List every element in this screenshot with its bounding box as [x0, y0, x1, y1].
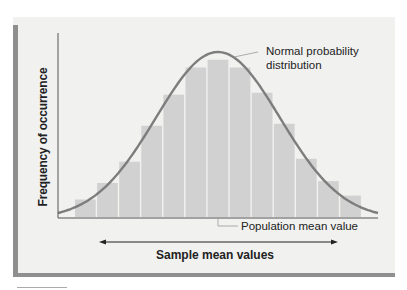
curve-annotation-pointer	[234, 52, 258, 57]
curve-annotation: Normal probability distribution	[266, 44, 359, 72]
sample-range-arrow	[99, 240, 338, 245]
histogram-bar	[97, 183, 118, 217]
curve-annotation-line2: distribution	[266, 58, 359, 72]
arrow-right-head-icon	[331, 240, 338, 245]
y-axis-label: Frequency of occurrence	[36, 57, 50, 217]
curve-annotation-line1: Normal probability	[266, 44, 359, 58]
histogram-bar	[186, 68, 207, 218]
mean-annotation-pointer	[218, 218, 238, 226]
histogram-bar	[163, 95, 184, 217]
histogram-bars	[75, 60, 361, 217]
histogram-bar	[141, 126, 162, 217]
x-axis-label: Sample mean values	[130, 248, 300, 262]
arrow-left-head-icon	[99, 240, 106, 245]
histogram-bar	[208, 60, 229, 217]
mean-annotation: Population mean value	[241, 219, 358, 233]
histogram-bar	[230, 68, 251, 218]
histogram-bar	[252, 93, 273, 217]
